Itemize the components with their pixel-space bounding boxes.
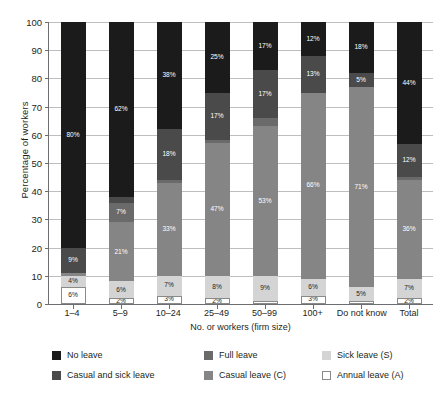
legend-label: No leave [67, 350, 103, 360]
x-axis-tick-label: 10–24 [144, 308, 192, 318]
stacked-bar[interactable]: 3%6%66%13%12% [301, 22, 326, 304]
bar-segment-full_leave[interactable]: 7% [109, 203, 134, 223]
bar-segment-no_leave[interactable]: 80% [61, 22, 86, 248]
bar-segment-value-label: 12% [403, 157, 416, 164]
bar-segment-annual[interactable]: 2% [397, 298, 422, 304]
bar-segment-casual[interactable]: 21% [109, 222, 134, 281]
x-axis-tick-label: Do not know [337, 308, 385, 318]
bar-segment-no_leave[interactable]: 62% [109, 22, 134, 197]
bar-segment-no_leave[interactable]: 18% [349, 22, 374, 73]
bar-segment-casual_and_sick[interactable]: 5% [349, 73, 374, 87]
bar-segment-casual[interactable]: 66% [301, 93, 326, 279]
bar-segment-value-label: 8% [212, 284, 221, 291]
bar-segment-sick[interactable]: 4% [61, 276, 86, 287]
bar-segment-full_leave[interactable] [205, 140, 230, 143]
bar-group: 6%4%9%80%2%6%21%7%62%3%7%33%18%38%2%8%47… [49, 22, 433, 304]
stacked-bar[interactable]: 9%53%17%17% [253, 22, 278, 304]
bar-segment-casual[interactable]: 47% [205, 143, 230, 276]
plot-area: 0102030405060708090100 6%4%9%80%2%6%21%7… [48, 22, 433, 305]
bar-segment-casual[interactable]: 71% [349, 87, 374, 287]
bar-segment-value-label: 4% [68, 278, 77, 285]
bar-segment-value-label: 9% [68, 257, 77, 264]
legend-swatch-full_leave [204, 351, 213, 360]
x-axis-tick-label: 5–9 [96, 308, 144, 318]
y-axis-tick-label: 40 [31, 186, 42, 197]
legend-swatch-casual [204, 371, 213, 380]
legend-swatch-no_leave [52, 351, 61, 360]
bar-segment-full_leave[interactable] [397, 177, 422, 180]
bar-segment-casual_and_sick[interactable]: 17% [205, 93, 230, 141]
x-axis-title: No. or workers (firm size) [48, 322, 433, 332]
bar-segment-annual[interactable]: 2% [205, 298, 230, 304]
bar-segment-casual[interactable] [61, 273, 86, 276]
stacked-bar[interactable]: 3%7%33%18%38% [157, 22, 182, 304]
bar-segment-value-label: 53% [259, 198, 272, 205]
bar-segment-value-label: 5% [356, 77, 365, 84]
stacked-bar[interactable]: 5%71%5%18% [349, 22, 374, 304]
legend-swatch-casual_and_sick [52, 371, 61, 380]
bar-segment-annual[interactable]: 6% [61, 287, 86, 304]
bar-segment-value-label: 47% [211, 206, 224, 213]
bar-segment-annual[interactable]: 3% [157, 296, 182, 304]
bar-segment-annual[interactable]: 2% [109, 298, 134, 304]
bar-segment-casual_and_sick[interactable] [109, 197, 134, 203]
y-axis-tick-label: 90 [31, 45, 42, 56]
bar-segment-casual[interactable]: 33% [157, 183, 182, 276]
bar-segment-value-label: 3% [164, 296, 173, 303]
bar-segment-casual_and_sick[interactable]: 9% [61, 248, 86, 273]
bar-segment-casual[interactable]: 36% [397, 180, 422, 280]
stacked-bar[interactable]: 2%8%47%17%25% [205, 22, 230, 304]
y-axis-tick-label: 60 [31, 129, 42, 140]
bar-column: 9%53%17%17% [241, 22, 289, 304]
bar-segment-no_leave[interactable]: 44% [397, 22, 422, 144]
bar-segment-no_leave[interactable]: 38% [157, 22, 182, 129]
bar-segment-sick[interactable]: 6% [109, 281, 134, 298]
stacked-bar[interactable]: 2%7%36%12%44% [397, 22, 422, 304]
bar-segment-sick[interactable]: 8% [205, 276, 230, 299]
x-axis-tick-label: 25–49 [192, 308, 240, 318]
stacked-bar[interactable]: 6%4%9%80% [61, 22, 86, 304]
bar-segment-sick[interactable]: 6% [301, 279, 326, 296]
bar-segment-casual_and_sick[interactable]: 18% [157, 129, 182, 180]
bar-segment-casual[interactable]: 53% [253, 126, 278, 275]
bar-segment-value-label: 9% [260, 285, 269, 292]
bar-segment-casual_and_sick[interactable]: 12% [397, 144, 422, 177]
bar-segment-casual_and_sick[interactable]: 17% [253, 70, 278, 118]
legend-item-no_leave[interactable]: No leave [52, 350, 204, 360]
stacked-bar-chart: Percentage of workers 010203040506070809… [0, 0, 443, 400]
y-axis-tick-label: 0 [37, 299, 42, 310]
bar-column: 6%4%9%80% [49, 22, 97, 304]
legend-item-sick[interactable]: Sick leave (S) [322, 350, 432, 360]
bar-segment-annual[interactable]: 3% [301, 296, 326, 304]
bar-segment-full_leave[interactable] [253, 118, 278, 126]
bar-segment-value-label: 71% [355, 184, 368, 191]
bar-segment-no_leave[interactable]: 25% [205, 22, 230, 93]
bar-segment-no_leave[interactable]: 17% [253, 22, 278, 70]
bar-segment-value-label: 18% [355, 44, 368, 51]
bar-segment-sick[interactable]: 9% [253, 276, 278, 301]
legend-swatch-annual [322, 371, 331, 380]
legend-item-annual[interactable]: Annual leave (A) [322, 370, 432, 380]
bar-column: 2%6%21%7%62% [97, 22, 145, 304]
bar-segment-no_leave[interactable]: 12% [301, 22, 326, 56]
x-axis-tick-label: 1–4 [48, 308, 96, 318]
legend-label: Full leave [219, 350, 258, 360]
y-axis-tick-label: 80 [31, 73, 42, 84]
bar-segment-value-label: 17% [259, 43, 272, 50]
bar-segment-full_leave[interactable] [157, 180, 182, 183]
bar-segment-value-label: 6% [308, 284, 317, 291]
legend-item-casual_and_sick[interactable]: Casual and sick leave [52, 370, 204, 380]
bar-segment-value-label: 3% [308, 296, 317, 303]
bar-segment-sick[interactable]: 7% [397, 279, 422, 298]
bar-segment-annual[interactable] [349, 301, 374, 304]
bar-segment-value-label: 6% [116, 287, 125, 294]
bar-segment-casual_and_sick[interactable]: 13% [301, 56, 326, 93]
legend-label: Sick leave (S) [337, 350, 393, 360]
bar-segment-annual[interactable] [253, 301, 278, 304]
bar-segment-value-label: 17% [259, 91, 272, 98]
legend-item-casual[interactable]: Casual leave (C) [204, 370, 322, 380]
stacked-bar[interactable]: 2%6%21%7%62% [109, 22, 134, 304]
bar-segment-sick[interactable]: 5% [349, 287, 374, 301]
legend-item-full_leave[interactable]: Full leave [204, 350, 322, 360]
bar-segment-sick[interactable]: 7% [157, 276, 182, 296]
